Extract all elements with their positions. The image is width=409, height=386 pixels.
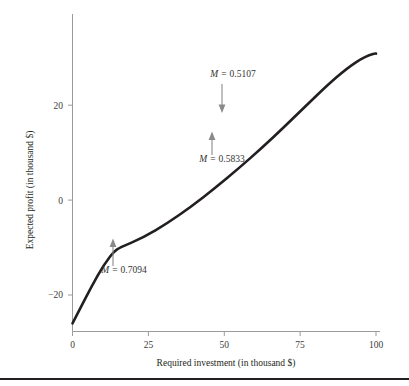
x-axis-tick-labels: 0 25 50 75 100 xyxy=(70,340,383,350)
x-tick-label-50: 50 xyxy=(220,340,230,350)
y-tick-label-0: 0 xyxy=(58,196,63,206)
annotation-m-05833-arrow-head xyxy=(209,132,216,141)
annotation-m-07094-prefix: M xyxy=(100,265,110,275)
y-axis-ticks xyxy=(68,105,73,295)
annotation-m-07094-label: M=0.7094 xyxy=(100,265,147,275)
y-axis-tick-labels: 20 0 −20 xyxy=(48,101,63,301)
x-tick-label-0: 0 xyxy=(70,340,75,350)
figure-container: 0 25 50 75 100 20 0 −20 Required investm… xyxy=(0,0,409,386)
annotation-m-05833-prefix: M xyxy=(198,154,208,164)
y-axis-title: Expected profit (in thousand $) xyxy=(25,131,36,250)
x-axis-title: Required investment (in thousand $) xyxy=(157,358,296,369)
annotation-m-07094-arrow-head xyxy=(110,239,117,248)
y-tick-label-minus20: −20 xyxy=(48,290,63,300)
x-tick-label-100: 100 xyxy=(369,340,384,350)
annotation-m-05107-arrow-head xyxy=(219,105,226,114)
bottom-rule-divider xyxy=(0,378,409,380)
expected-profit-chart: 0 25 50 75 100 20 0 −20 Required investm… xyxy=(0,0,409,386)
annotation-m-05833-label: M=0.5833 xyxy=(198,154,245,164)
x-tick-label-25: 25 xyxy=(144,340,154,350)
profit-curve xyxy=(73,54,377,324)
annotation-m-07094: M=0.7094 xyxy=(100,239,147,276)
y-tick-label-20: 20 xyxy=(54,101,64,111)
annotation-m-05833-equals: = xyxy=(210,154,215,164)
x-tick-label-75: 75 xyxy=(295,340,305,350)
annotation-m-05107-equals: = xyxy=(221,69,226,79)
annotation-m-05833: M=0.5833 xyxy=(198,132,245,165)
annotation-m-05107-prefix: M xyxy=(209,69,219,79)
annotation-m-05107-label: M=0.5107 xyxy=(209,69,256,79)
annotation-m-05107-value: 0.5107 xyxy=(230,69,256,79)
x-axis-ticks xyxy=(73,332,377,337)
annotation-m-05833-value: 0.5833 xyxy=(219,154,245,164)
annotation-m-07094-value: 0.7094 xyxy=(121,265,147,275)
annotation-m-05107: M=0.5107 xyxy=(209,69,256,113)
annotation-m-07094-equals: = xyxy=(112,265,117,275)
